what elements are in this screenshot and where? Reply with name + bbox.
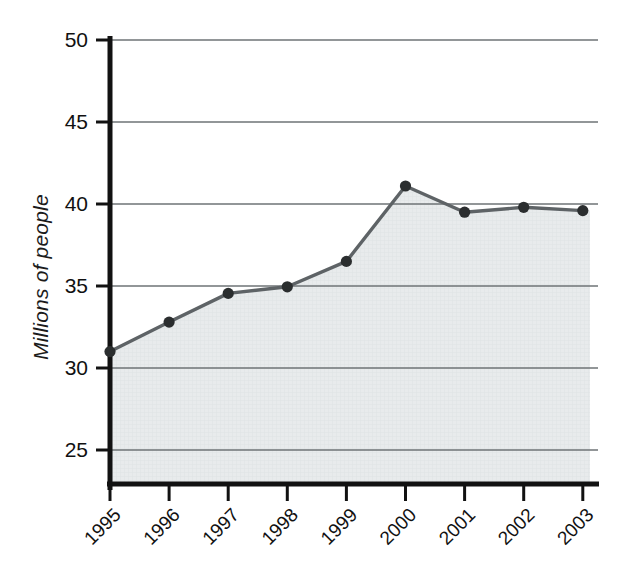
chart-canvas: 253035404550 199519961997199819992000200… bbox=[0, 0, 626, 565]
data-point-marker bbox=[104, 346, 115, 357]
data-point-marker bbox=[223, 288, 234, 299]
data-point-marker bbox=[400, 180, 411, 191]
y-axis-tick-label: 50 bbox=[65, 28, 88, 51]
y-axis-tick-label: 30 bbox=[65, 356, 88, 379]
line-chart: 253035404550 199519961997199819992000200… bbox=[0, 0, 626, 565]
data-point-marker bbox=[341, 256, 352, 267]
y-axis-tick-label: 35 bbox=[65, 274, 88, 297]
y-axis-tick-label: 40 bbox=[65, 192, 88, 215]
y-axis-tick-label: 45 bbox=[65, 110, 88, 133]
data-point-marker bbox=[164, 317, 175, 328]
data-point-marker bbox=[282, 281, 293, 292]
data-point-marker bbox=[518, 202, 529, 213]
y-axis-title: Millions of people bbox=[29, 194, 52, 360]
y-axis-tick-label: 25 bbox=[65, 438, 88, 461]
data-point-marker bbox=[459, 207, 470, 218]
data-point-marker bbox=[577, 205, 588, 216]
